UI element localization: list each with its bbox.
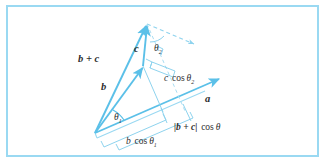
figure-root: b + c b c a θ1 θ2 c cos θ2 b cos θ1 |b +… [0, 0, 327, 166]
bccos-cos-text: cos [201, 122, 214, 132]
theta2-subscript: 2 [159, 49, 162, 55]
dashed-parallel-direction-line [147, 24, 194, 44]
label-vector-c: c [134, 44, 139, 55]
label-angle-theta1: θ1 [114, 113, 122, 125]
bccos-bracket-tick-left [116, 144, 119, 150]
projection-dropline-mid [143, 66, 163, 112]
vector-a-cap-line [95, 133, 97, 138]
bcos-theta-subscript: 1 [154, 142, 157, 148]
ccos-theta-subscript: 2 [191, 79, 194, 85]
label-magnitude-bc-cos-theta: |b + c| cos θ [174, 123, 220, 133]
bcos-bracket-tick-left [101, 141, 104, 147]
bccos-magnitude-text: |b + c| [174, 122, 197, 132]
label-c-cos-theta2: c cos θ2 [164, 74, 194, 86]
bccos-bracket-tick-right [190, 112, 193, 118]
ccos-cos-text: cos [172, 73, 185, 83]
label-angle-theta2: θ2 [154, 44, 162, 56]
label-b-cos-theta1: b cos θ1 [126, 137, 157, 149]
theta1-subscript: 1 [119, 118, 122, 124]
bcos-cos-text: cos [135, 136, 148, 146]
ccos-c-symbol: c [164, 73, 168, 83]
bcos-b-symbol: b [126, 136, 131, 146]
label-vector-b: b [101, 82, 106, 93]
label-vector-b-plus-c: b + c [78, 54, 99, 65]
label-vector-a: a [205, 94, 210, 105]
right-angle-marker-mid [146, 59, 152, 68]
bccos-theta-symbol: θ [216, 122, 221, 132]
